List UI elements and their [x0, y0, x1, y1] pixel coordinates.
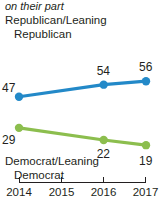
data-point-democrat-2016 [99, 136, 107, 144]
line-chart: on their part Republican/Leaning Republi… [0, 0, 162, 202]
data-label-democrat-2017: 19 [139, 155, 152, 167]
x-tick-label-2017: 2017 [129, 186, 163, 198]
data-label-democrat-2014: 29 [2, 134, 15, 146]
data-point-democrat-2017 [142, 141, 150, 149]
x-tick-label-2014: 2014 [2, 186, 36, 198]
plot-area [0, 0, 162, 202]
data-point-republican-2014 [15, 93, 23, 101]
x-axis [19, 177, 146, 183]
data-label-republican-2017: 56 [139, 61, 152, 73]
series-line-democrat [15, 124, 150, 150]
data-point-republican-2016 [99, 80, 107, 88]
x-tick-label-2016: 2016 [87, 186, 121, 198]
series-line-republican [15, 77, 150, 101]
data-label-republican-2016: 54 [97, 65, 110, 77]
data-point-republican-2017 [142, 77, 150, 85]
data-label-republican-2014: 47 [2, 82, 15, 94]
data-label-democrat-2016: 22 [97, 148, 110, 160]
x-tick-label-2015: 2015 [45, 186, 79, 198]
data-point-democrat-2014 [15, 124, 23, 132]
